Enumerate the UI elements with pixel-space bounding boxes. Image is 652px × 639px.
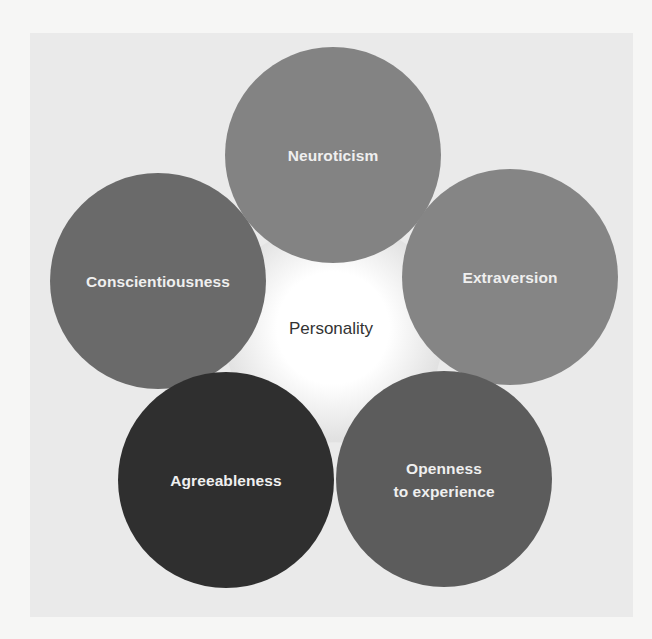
trait-circle-neuroticism: Neuroticism xyxy=(225,47,441,263)
trait-label-agreeableness: Agreeableness xyxy=(170,469,282,492)
personality-diagram: Neuroticism Extraversion Conscientiousne… xyxy=(0,0,652,639)
trait-label-conscientiousness: Conscientiousness xyxy=(86,270,230,293)
trait-label-extraversion: Extraversion xyxy=(462,266,557,289)
center-label-personality: Personality xyxy=(256,318,406,340)
trait-circle-agreeableness: Agreeableness xyxy=(118,372,334,588)
trait-circle-conscientiousness: Conscientiousness xyxy=(50,173,266,389)
trait-label-neuroticism: Neuroticism xyxy=(288,144,379,167)
trait-label-openness: Openness to experience xyxy=(393,457,494,503)
trait-circle-extraversion: Extraversion xyxy=(402,169,618,385)
trait-circle-openness: Openness to experience xyxy=(336,371,552,587)
